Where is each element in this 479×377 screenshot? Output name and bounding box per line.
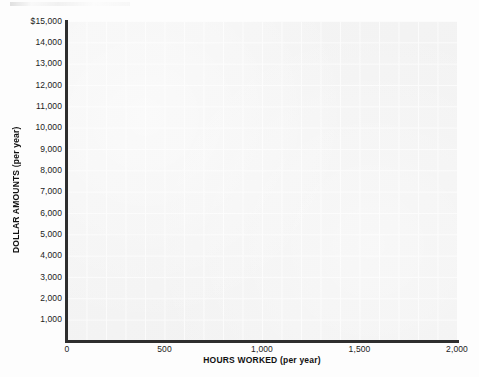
x-axis-tick-label: 0	[65, 344, 70, 354]
x-axis-tick-label: 1,000	[251, 344, 273, 354]
x-axis-tick-labels: 05001,0001,5002,000	[0, 0, 479, 377]
y-axis-title: DOLLAR AMOUNTS (per year)	[9, 110, 23, 270]
x-axis-tick-label: 500	[157, 344, 171, 354]
chart-figure: 1,0002,0003,0004,0005,0006,0007,0008,000…	[0, 0, 479, 377]
x-axis-tick-label: 2,000	[446, 344, 468, 354]
x-axis-tick-label: 1,500	[349, 344, 371, 354]
x-axis-title: HOURS WORKED (per year)	[67, 355, 457, 365]
